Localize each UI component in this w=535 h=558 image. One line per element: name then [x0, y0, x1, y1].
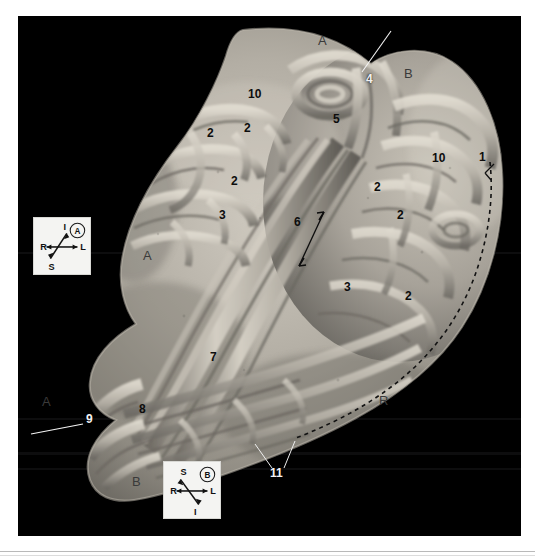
compass-b-label-diag-lower: I: [194, 507, 197, 517]
compass-b-axis-diagonal: [180, 479, 198, 504]
compass-a-arrowhead-left: [47, 245, 52, 250]
label-7: 7: [210, 351, 217, 363]
compass-a: A R L I S: [33, 217, 91, 275]
stomach-mucosa-specimen: [38, 22, 508, 522]
compass-a-arrowhead-right: [73, 245, 78, 250]
compass-b-label-left: R: [170, 486, 177, 496]
watermark-a-lowerleft: A: [42, 394, 51, 409]
label-2f: 2: [405, 290, 412, 302]
label-3a: 3: [219, 209, 226, 221]
label-10b: 10: [432, 152, 445, 164]
compass-a-label-left: R: [40, 242, 47, 252]
label-3b: 3: [344, 281, 351, 293]
watermark-b-bottom: B: [132, 474, 141, 489]
compass-a-label-diag-lower: S: [48, 262, 54, 272]
watermark-a-top: A: [318, 33, 327, 48]
footer-rule-primary: [0, 551, 535, 552]
label-8: 8: [139, 403, 146, 415]
compass-a-graphic: A R L I S: [34, 218, 90, 274]
label-2a: 2: [207, 127, 214, 139]
compass-b-arrowhead-right: [203, 489, 208, 494]
label-2c: 2: [231, 175, 238, 187]
compass-b: B R L S I: [163, 461, 221, 519]
compass-a-axis-diagonal: [50, 233, 66, 258]
compass-b-arrowhead-left: [177, 489, 182, 494]
label-2b: 2: [244, 122, 251, 134]
compass-b-label-right: L: [210, 486, 216, 496]
specimen-photograph: A B A A R B 1 2 2 2 2 2 2 3 3 4 5: [18, 16, 521, 536]
compass-a-label-diag-upper: I: [63, 222, 66, 232]
label-4: 4: [366, 73, 373, 85]
label-1: 1: [479, 151, 486, 163]
watermark-a-midleft: A: [143, 248, 152, 263]
label-9: 9: [86, 413, 93, 425]
figure-page: A B A A R B 1 2 2 2 2 2 2 3 3 4 5: [0, 0, 535, 558]
label-10a: 10: [248, 88, 261, 100]
label-6: 6: [294, 216, 301, 228]
compass-b-graphic: B R L S I: [164, 462, 220, 518]
tissue-body: [38, 22, 508, 522]
photo-field: A B A A R B 1 2 2 2 2 2 2 3 3 4 5: [18, 16, 521, 536]
compass-b-label-diag-upper: S: [180, 467, 186, 477]
watermark-r-lowerright: R: [379, 393, 389, 408]
compass-a-label-right: L: [80, 242, 86, 252]
watermark-b-topright: B: [404, 66, 413, 81]
label-2e: 2: [397, 209, 404, 221]
compass-a-badge-letter: A: [74, 227, 80, 236]
compass-b-badge-letter: B: [204, 471, 210, 480]
label-5: 5: [333, 113, 340, 125]
label-11: 11: [270, 467, 283, 479]
label-2d: 2: [374, 181, 381, 193]
footer-rule-secondary: [0, 555, 535, 556]
